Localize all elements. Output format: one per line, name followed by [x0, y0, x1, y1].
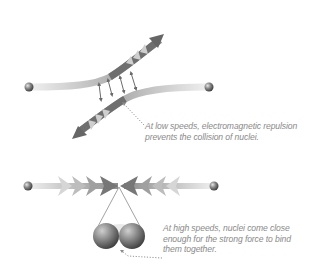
caption-line: At high speeds, nuclei come close [163, 223, 291, 234]
caption-low-speed: At low speeds, electromagnetic repulsion… [145, 121, 297, 142]
nucleus-right [210, 182, 219, 191]
deflected-path-up-right [32, 40, 160, 87]
fused-nucleus-right [119, 223, 145, 249]
leader-line-low [124, 104, 144, 125]
caption-line: them together. [163, 244, 291, 255]
nucleus-left [24, 182, 33, 191]
caption-line: At low speeds, electromagnetic repulsion [145, 121, 297, 132]
fused-nucleus-left [93, 223, 119, 249]
fused-nuclei-pair [93, 223, 145, 249]
caption-line: prevents the collision of nuclei. [145, 132, 297, 143]
nucleus-right [205, 83, 214, 92]
caption-high-speed: At high speeds, nuclei come close enough… [163, 223, 291, 255]
leader-line-high [122, 251, 162, 258]
caption-line: enough for the strong force to bind [163, 234, 291, 245]
nucleus-left [25, 83, 34, 92]
